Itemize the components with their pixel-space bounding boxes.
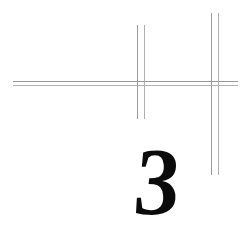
page-number-numeral: 3: [126, 136, 188, 228]
scanned-page: 3: [0, 0, 242, 229]
vertical-rule-right-inner: [211, 13, 212, 175]
vertical-rule-left-inner: [137, 25, 138, 119]
horizontal-rule-upper: [13, 81, 238, 82]
crosshair-rule-figure: [0, 0, 242, 229]
vertical-rule-left-outer: [144, 25, 145, 119]
numeral-glyph: 3: [125, 136, 190, 228]
vertical-rule-right-outer: [218, 13, 219, 175]
horizontal-rule-lower: [13, 85, 238, 86]
